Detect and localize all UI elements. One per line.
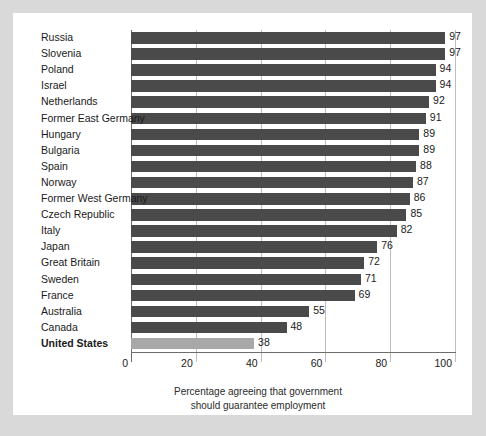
bar-value-label: 97	[449, 45, 461, 59]
category-label-bulgaria: Bulgaria	[41, 144, 137, 157]
bar-value-label: 85	[410, 206, 422, 220]
category-label-italy: Italy	[41, 224, 137, 237]
bar-former-east-germany	[131, 113, 426, 125]
category-labels: RussiaSloveniaPolandIsraelNetherlandsFor…	[41, 30, 137, 352]
bar-row: 94	[131, 62, 455, 78]
bar-canada	[131, 322, 287, 334]
category-label-japan: Japan	[41, 240, 137, 253]
category-label-former-east-germany: Former East Germany	[41, 112, 137, 125]
x-axis-line	[131, 352, 456, 353]
bar-czech-republic	[131, 209, 406, 221]
category-label-spain: Spain	[41, 160, 137, 173]
bar-value-label: 76	[381, 238, 393, 252]
bar-russia	[131, 32, 445, 44]
bar-former-west-germany	[131, 193, 410, 205]
bar-row: 72	[131, 255, 455, 271]
category-label-hungary: Hungary	[41, 128, 137, 141]
category-label-former-west-germany: Former West Germany	[41, 192, 137, 205]
bar-value-label: 82	[401, 222, 413, 236]
bar-row: 38	[131, 336, 455, 352]
bar-hungary	[131, 129, 419, 141]
bar-row: 71	[131, 272, 455, 288]
category-label-norway: Norway	[41, 176, 137, 189]
x-axis-caption: Percentage agreeing that government shou…	[93, 385, 423, 412]
bar-row: 89	[131, 127, 455, 143]
bar-value-label: 94	[440, 77, 452, 91]
bar-row: 91	[131, 111, 455, 127]
category-label-israel: Israel	[41, 79, 137, 92]
bar-row: 89	[131, 143, 455, 159]
bar-france	[131, 290, 355, 302]
bar-netherlands	[131, 96, 429, 108]
bar-value-label: 97	[449, 29, 461, 43]
bar-israel	[131, 80, 436, 92]
bar-row: 88	[131, 159, 455, 175]
bar-row: 55	[131, 304, 455, 320]
bar-poland	[131, 64, 436, 76]
caption-line-1: Percentage agreeing that government	[93, 385, 423, 399]
bar-row: 97	[131, 46, 455, 62]
bar-value-label: 87	[417, 174, 429, 188]
bar-value-label: 55	[313, 303, 325, 317]
x-tick-label-40: 40	[246, 357, 258, 370]
gridline-100	[455, 30, 456, 362]
bar-row: 48	[131, 320, 455, 336]
bar-row: 87	[131, 175, 455, 191]
bar-value-label: 88	[420, 158, 432, 172]
bar-row: 92	[131, 94, 455, 110]
bar-spain	[131, 161, 416, 173]
x-tick-label-60: 60	[311, 357, 323, 370]
category-label-sweden: Sweden	[41, 273, 137, 286]
bar-value-label: 71	[365, 271, 377, 285]
bar-japan	[131, 241, 377, 253]
bar-italy	[131, 225, 397, 237]
bar-value-label: 94	[440, 61, 452, 75]
x-tick-label-0: 0	[122, 357, 128, 370]
category-label-united-states: United States	[41, 337, 137, 350]
bar-row: 94	[131, 78, 455, 94]
bar-australia	[131, 306, 309, 318]
bar-united-states	[131, 338, 254, 350]
bar-value-label: 89	[423, 126, 435, 140]
x-tick-label-20: 20	[181, 357, 193, 370]
x-tick-label-80: 80	[376, 357, 388, 370]
bar-row: 82	[131, 223, 455, 239]
plot-area: 9797949492918989888786858276727169554838	[131, 30, 455, 352]
category-label-czech-republic: Czech Republic	[41, 208, 137, 221]
bar-bulgaria	[131, 145, 419, 157]
bar-row: 85	[131, 207, 455, 223]
bar-value-label: 38	[258, 335, 270, 349]
bar-row: 97	[131, 30, 455, 46]
figure-card: 9797949492918989888786858276727169554838…	[13, 13, 472, 415]
bar-value-label: 92	[433, 93, 445, 107]
bar-row: 69	[131, 288, 455, 304]
category-label-australia: Australia	[41, 305, 137, 318]
bar-great-britain	[131, 257, 364, 269]
category-label-russia: Russia	[41, 31, 137, 44]
bar-sweden	[131, 274, 361, 286]
bar-value-label: 91	[430, 110, 442, 124]
bar-value-label: 48	[291, 319, 303, 333]
category-label-slovenia: Slovenia	[41, 47, 137, 60]
bar-norway	[131, 177, 413, 189]
bars-layer: 9797949492918989888786858276727169554838	[131, 30, 455, 352]
category-label-canada: Canada	[41, 321, 137, 334]
bar-value-label: 86	[414, 190, 426, 204]
bar-value-label: 69	[359, 287, 371, 301]
x-tick-label-100: 100	[434, 357, 452, 370]
category-label-great-britain: Great Britain	[41, 256, 137, 269]
bar-value-label: 89	[423, 142, 435, 156]
bar-value-label: 72	[368, 254, 380, 268]
category-label-france: France	[41, 289, 137, 302]
bar-slovenia	[131, 48, 445, 60]
caption-line-2: should guarantee employment	[93, 399, 423, 413]
category-label-netherlands: Netherlands	[41, 95, 137, 108]
bar-row: 86	[131, 191, 455, 207]
bar-row: 76	[131, 239, 455, 255]
category-label-poland: Poland	[41, 63, 137, 76]
